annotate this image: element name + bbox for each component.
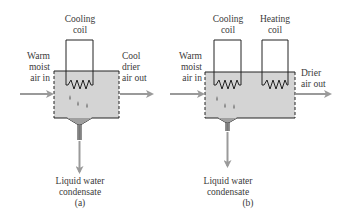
label-line: air in <box>14 73 50 84</box>
inlet-label-a: Warm moist air in <box>14 51 50 84</box>
label-line: condensate <box>48 187 112 198</box>
label-line: Cooling <box>206 14 250 25</box>
inlet-label-b: Warm moist air in <box>166 51 202 84</box>
funnel-a <box>67 118 92 124</box>
label-line: Liquid water <box>48 176 112 187</box>
label-line: Warm <box>166 51 202 62</box>
label-line: drier <box>122 62 158 73</box>
label-line: coil <box>206 25 250 36</box>
heating-coil-label-b: Heating coil <box>253 14 297 36</box>
label-line: Warm <box>14 51 50 62</box>
label-line: Cool <box>122 51 158 62</box>
label-line: coil <box>253 25 297 36</box>
drain-label-a: Liquid water condensate (a) <box>48 176 112 209</box>
label-line: Drier <box>301 68 341 79</box>
label-line: Cooling <box>58 14 102 25</box>
label-line: moist <box>14 62 50 73</box>
label-line: air out <box>301 79 341 90</box>
outlet-label-b: Drier air out <box>301 68 341 90</box>
caption-a: (a) <box>48 198 112 209</box>
label-line: air out <box>122 73 158 84</box>
label-line: moist <box>166 62 202 73</box>
cooling-coil-label-a: Cooling coil <box>58 14 102 36</box>
outlet-label-a: Cool drier air out <box>122 51 158 84</box>
label-line: Heating <box>253 14 297 25</box>
chamber-b <box>205 72 295 118</box>
label-line: Liquid water <box>196 176 260 187</box>
label-line: coil <box>58 25 102 36</box>
cooling-coil-label-b: Cooling coil <box>206 14 250 36</box>
drain-label-b: Liquid water condensate <box>196 176 260 198</box>
label-line: air in <box>166 73 202 84</box>
caption-b: (b) <box>238 198 258 209</box>
label-line: condensate <box>196 187 260 198</box>
chamber-a <box>54 71 119 118</box>
